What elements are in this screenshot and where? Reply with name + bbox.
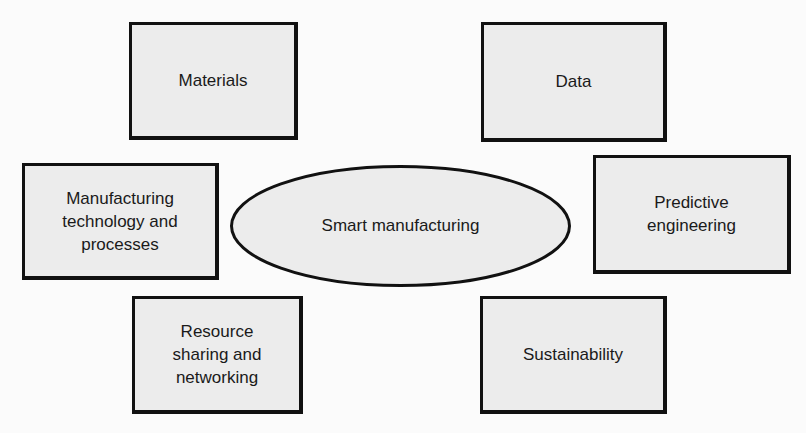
node-materials: Materials <box>129 22 298 140</box>
diagram-canvas: Materials Data Manufacturing technology … <box>0 0 806 433</box>
node-label: Predictive engineering <box>647 191 736 237</box>
node-label: Sustainability <box>523 343 623 366</box>
node-resource-sharing: Resource sharing and networking <box>132 296 303 414</box>
node-label: Data <box>556 70 592 93</box>
node-label: Manufacturing technology and processes <box>62 187 177 256</box>
center-label: Smart manufacturing <box>229 164 572 288</box>
node-label: Resource sharing and networking <box>173 320 262 389</box>
node-sustainability: Sustainability <box>480 296 667 414</box>
center-node-smart-manufacturing: Smart manufacturing <box>229 164 572 288</box>
node-manufacturing-technology: Manufacturing technology and processes <box>22 163 219 280</box>
node-predictive-engineering: Predictive engineering <box>593 155 791 274</box>
node-data: Data <box>481 22 667 142</box>
node-label: Materials <box>179 69 248 92</box>
